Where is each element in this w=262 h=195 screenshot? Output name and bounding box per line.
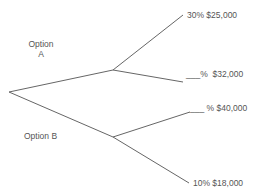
outcome-b2-label: 10% $18,000 [193, 178, 243, 188]
branch-b-outcome-1 [113, 112, 190, 137]
option-a-label: Option A [22, 39, 60, 59]
branch-root-to-option-a [9, 70, 113, 92]
outcome-a2-label: ___% $32,000 [186, 69, 243, 79]
decision-tree-lines [0, 0, 262, 195]
branch-a-outcome-1 [113, 15, 183, 70]
outcome-b1-label: ___ % $40,000 [190, 103, 247, 113]
branch-b-outcome-2 [113, 137, 189, 183]
branch-a-outcome-2 [113, 70, 183, 82]
option-a-label-line1: Option [22, 39, 60, 49]
outcome-a1-label: 30% $25,000 [187, 10, 237, 20]
option-b-label: Option B [24, 131, 57, 141]
option-a-label-line2: A [22, 49, 60, 59]
